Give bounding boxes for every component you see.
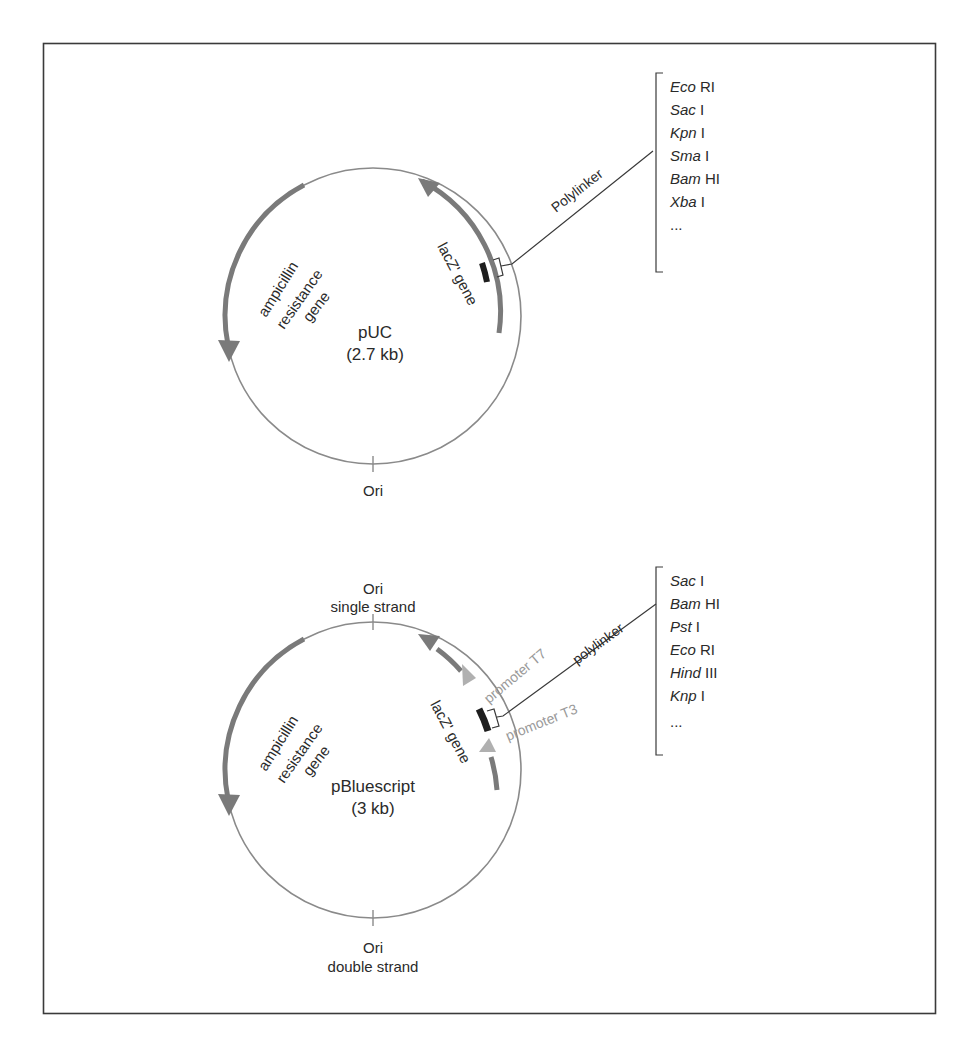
pbs-ori-ds-sublabel: double strand	[328, 958, 419, 975]
site-item: Bam HI	[670, 170, 720, 187]
puc-polylinker-block	[482, 263, 487, 282]
figure-frame	[44, 44, 936, 1014]
pbs-lacz-gene-arc-upper	[437, 649, 461, 671]
puc-name: pUC	[358, 323, 392, 342]
puc-sites-bracket	[656, 73, 663, 272]
site-item: Sma I	[670, 147, 709, 164]
pbs-lacz-gene-arc-lower	[491, 757, 497, 790]
puc-lacz-label: lacZ' gene	[434, 239, 481, 308]
pbs-lacz-arrowhead-icon	[418, 634, 440, 651]
puc-lacz-gene-arc	[422, 181, 501, 333]
puc-site-list: Eco RI Sac I Kpn I Sma I Bam HI Xba I ..…	[669, 78, 720, 233]
pbs-polylinker-block	[479, 709, 488, 731]
site-item: Knp I	[670, 687, 705, 704]
pbs-ori-ss-sublabel: single strand	[330, 598, 415, 615]
pbs-amp-arrowhead-icon	[218, 794, 240, 816]
pbs-amp-label: ampicillin resistance gene	[254, 712, 333, 785]
puc-map: Polylinker Eco RI Sac I Kpn I Sma I Bam …	[218, 73, 720, 499]
site-item: Sac I	[670, 572, 704, 589]
site-item: Eco RI	[670, 641, 715, 658]
pbs-lacz-label: lacZ' gene	[427, 697, 474, 766]
pbs-promoter-t7-label: promoter T7	[481, 645, 550, 706]
site-item: Xba I	[669, 193, 705, 210]
pbs-promoter-t7-arrowhead-icon	[462, 664, 476, 686]
pbs-site-list: Sac I Bam HI Pst I Eco RI Hind III Knp I…	[670, 572, 720, 730]
pbs-ori-ss-label: Ori	[363, 580, 383, 597]
puc-polylinker-bracket	[493, 151, 653, 277]
site-item: Pst I	[670, 618, 700, 635]
pbs-name: pBluescript	[331, 777, 415, 796]
plasmid-figure: Polylinker Eco RI Sac I Kpn I Sma I Bam …	[0, 0, 971, 1045]
site-item: Kpn I	[670, 124, 705, 141]
pbs-sites-bracket	[656, 567, 663, 755]
site-item: Sac I	[670, 101, 704, 118]
puc-ori-label: Ori	[363, 482, 383, 499]
pbluescript-map: polylinker promoter T7 promoter T3 Sac I…	[218, 567, 720, 975]
pbs-size: (3 kb)	[351, 799, 394, 818]
puc-polylinker-label: Polylinker	[548, 165, 606, 215]
site-item: ...	[670, 713, 683, 730]
pbs-polylinker-label: polylinker	[569, 620, 627, 668]
pbs-promoter-t3-arrowhead-icon	[479, 738, 496, 752]
puc-amp-label: ampicillin resistance gene	[254, 258, 333, 331]
site-item: Bam HI	[670, 595, 720, 612]
site-item: Hind III	[670, 664, 718, 681]
puc-amp-arrowhead-icon	[218, 340, 240, 362]
pbs-ori-ds-label: Ori	[363, 939, 383, 956]
site-item: ...	[670, 216, 683, 233]
puc-size: (2.7 kb)	[346, 345, 404, 364]
site-item: Eco RI	[670, 78, 715, 95]
